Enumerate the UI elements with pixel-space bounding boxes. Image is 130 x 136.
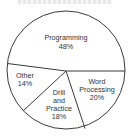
label-other-value: 14%	[18, 79, 33, 88]
label-drill-value: 18%	[52, 112, 67, 121]
label-programming-name: Programming	[44, 33, 87, 42]
label-word-value: 20%	[90, 93, 105, 102]
label-programming-value: 48%	[59, 42, 74, 51]
pie-chart: Programming 48% Other 14% Word Processin…	[0, 0, 130, 136]
slice-label-other: Other 14%	[16, 71, 35, 88]
